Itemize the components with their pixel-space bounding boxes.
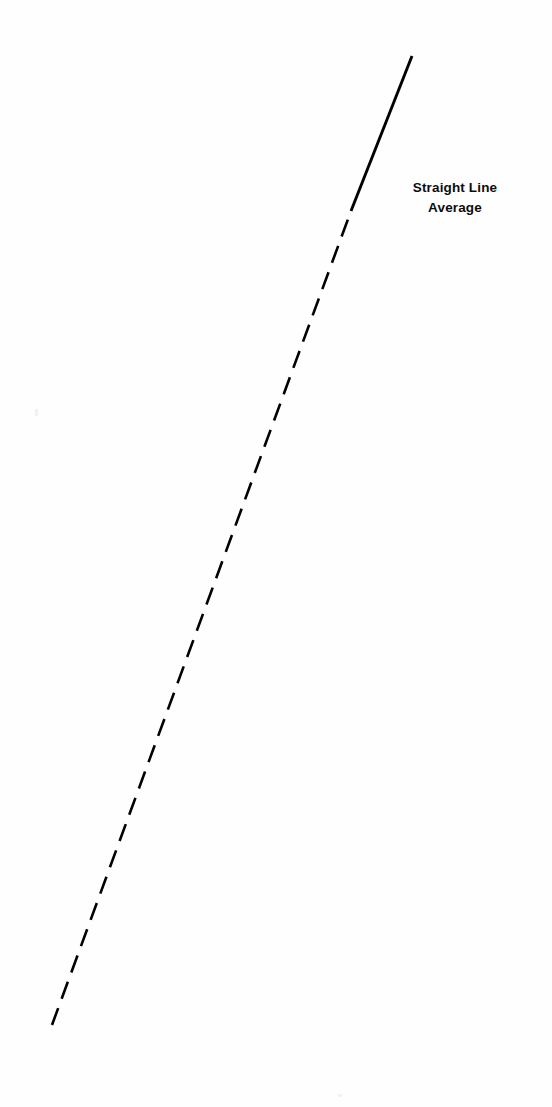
series-label-line-2: Average: [381, 198, 529, 218]
series-label-line-1: Straight Line: [381, 178, 529, 198]
line-plot: [0, 0, 552, 1107]
series-label: Straight Line Average: [381, 178, 529, 218]
figure-canvas: Straight Line Average: [0, 0, 552, 1107]
trend-line-dashed-segment: [52, 211, 351, 1025]
